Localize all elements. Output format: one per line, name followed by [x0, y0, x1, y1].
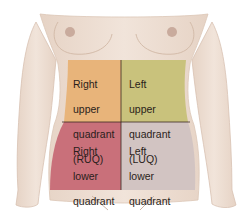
luq-line1: Left [129, 78, 170, 91]
rlq-label: Right lower quadrant (RLQ) [73, 132, 114, 220]
ruq-line1: Right [73, 78, 114, 91]
llq-line2: lower [129, 170, 170, 183]
rlq-line2: lower [73, 170, 114, 183]
ruq-line2: upper [73, 103, 114, 116]
luq-line2: upper [129, 103, 170, 116]
llq-line3: quadrant [129, 195, 170, 208]
rlq-line1: Right [73, 145, 114, 158]
left-nipple [167, 27, 177, 37]
llq-line1: Left [129, 145, 170, 158]
llq-label: Left lower quadrant (LLQ) [129, 132, 170, 220]
abdominal-quadrants-diagram: Right upper quadrant (RUQ) Left upper qu… [0, 0, 249, 220]
right-nipple [65, 27, 75, 37]
rlq-line3: quadrant [73, 195, 114, 208]
torso-illustration [0, 0, 249, 220]
